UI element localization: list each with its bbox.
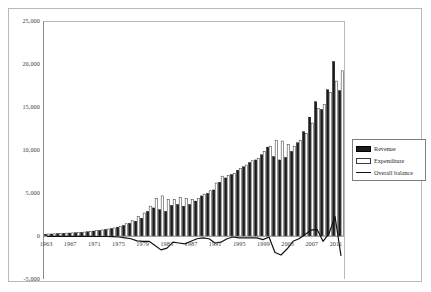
bar-expenditure — [83, 232, 85, 236]
bar-revenue — [254, 160, 256, 236]
bar-expenditure — [311, 123, 313, 236]
chart-legend: Revenue Expenditure Overall balance — [352, 139, 426, 181]
y-tick-label: 0 — [37, 232, 40, 239]
bar-revenue — [104, 229, 106, 236]
bar-expenditure — [119, 226, 121, 236]
x-tick-label: 1967 — [64, 240, 77, 247]
bar-expenditure — [71, 233, 73, 236]
bar-expenditure — [269, 146, 271, 236]
bar-revenue — [218, 182, 220, 236]
bar-expenditure — [239, 168, 241, 236]
x-tick-label: 2003 — [281, 240, 294, 247]
y-tick-label: 20,000 — [22, 60, 40, 67]
legend-item-overall-balance: Overall balance — [356, 167, 422, 179]
bar-expenditure — [227, 175, 229, 236]
y-tick-label: 15,000 — [22, 103, 40, 110]
bar-revenue — [290, 151, 292, 236]
bar-revenue — [296, 143, 298, 236]
bar-revenue — [182, 206, 184, 236]
bar-revenue — [236, 170, 238, 236]
legend-label-overall-balance: Overall balance — [374, 169, 413, 177]
x-tick-label: 1979 — [136, 240, 149, 247]
x-tick-label: 1975 — [112, 240, 125, 247]
bar-expenditure — [245, 165, 247, 236]
legend-swatch-expenditure-icon — [356, 158, 371, 164]
legend-label-revenue: Revenue — [374, 145, 396, 153]
bar-revenue — [212, 190, 214, 236]
bar-revenue — [152, 208, 154, 236]
bar-revenue — [140, 218, 142, 236]
bar-revenue — [80, 232, 82, 236]
bar-revenue — [302, 132, 304, 237]
bar-expenditure — [161, 196, 163, 236]
bar-revenue — [260, 155, 262, 236]
y-tick-label: 10,000 — [22, 146, 40, 153]
legend-item-revenue: Revenue — [356, 143, 422, 155]
bar-expenditure — [185, 198, 187, 236]
bar-revenue — [176, 204, 178, 236]
bar-expenditure — [65, 233, 67, 236]
bar-revenue — [284, 157, 286, 236]
bar-expenditure — [179, 198, 181, 237]
bar-expenditure — [341, 71, 343, 236]
bar-expenditure — [293, 146, 295, 236]
bar-expenditure — [101, 230, 103, 236]
bar-revenue — [74, 233, 76, 236]
x-tick-label: 1991 — [209, 240, 222, 247]
bar-expenditure — [167, 199, 169, 236]
bar-revenue — [146, 211, 148, 236]
bar-revenue — [128, 223, 130, 236]
bar-revenue — [110, 228, 112, 236]
bar-expenditure — [275, 140, 277, 236]
bar-expenditure — [89, 231, 91, 236]
y-tick-label: 25,000 — [22, 17, 40, 24]
bar-expenditure — [329, 92, 331, 236]
bar-revenue — [188, 204, 190, 236]
y-tick-label: 5,000 — [26, 189, 40, 196]
bar-revenue — [170, 205, 172, 236]
bar-revenue — [326, 90, 328, 236]
x-tick-label: 1971 — [88, 240, 101, 247]
bar-expenditure — [137, 216, 139, 236]
x-tick-label: 1987 — [185, 240, 198, 247]
bar-expenditure — [143, 213, 145, 236]
bar-expenditure — [197, 198, 199, 236]
bar-expenditure — [257, 158, 259, 236]
bar-revenue — [164, 211, 166, 236]
bar-expenditure — [287, 145, 289, 237]
bar-revenue — [230, 174, 232, 236]
bar-expenditure — [113, 228, 115, 236]
bar-expenditure — [131, 221, 133, 236]
bar-revenue — [98, 230, 100, 236]
bar-expenditure — [221, 176, 223, 236]
legend-swatch-revenue-icon — [356, 146, 371, 152]
bar-revenue — [278, 160, 280, 236]
legend-swatch-line-icon — [356, 170, 371, 176]
bar-revenue — [266, 147, 268, 236]
bar-expenditure — [263, 151, 265, 236]
bar-expenditure — [107, 229, 109, 236]
bar-revenue — [314, 102, 316, 236]
legend-item-expenditure: Expenditure — [356, 155, 422, 167]
bar-expenditure — [299, 140, 301, 236]
bar-revenue — [92, 231, 94, 236]
bar-revenue — [200, 196, 202, 236]
bar-revenue — [86, 232, 88, 236]
bar-expenditure — [203, 194, 205, 236]
bar-expenditure — [191, 199, 193, 236]
y-tick-label: -5,000 — [23, 275, 40, 282]
chart-figure: 25,00020,00015,00010,0005,0000-5,000 196… — [0, 0, 431, 292]
bars-group — [44, 61, 343, 236]
bar-revenue — [158, 210, 160, 237]
bar-expenditure — [173, 199, 175, 236]
bar-expenditure — [95, 231, 97, 236]
bar-expenditure — [317, 109, 319, 237]
bar-expenditure — [281, 141, 283, 236]
x-tick-label: 2011 — [330, 240, 343, 247]
x-axis-labels: 1963196719711975197919831987199119951999… — [0, 240, 431, 252]
bar-expenditure — [215, 183, 217, 236]
bar-revenue — [332, 61, 334, 236]
bar-expenditure — [233, 174, 235, 237]
bar-revenue — [272, 156, 274, 236]
bar-revenue — [116, 227, 118, 236]
